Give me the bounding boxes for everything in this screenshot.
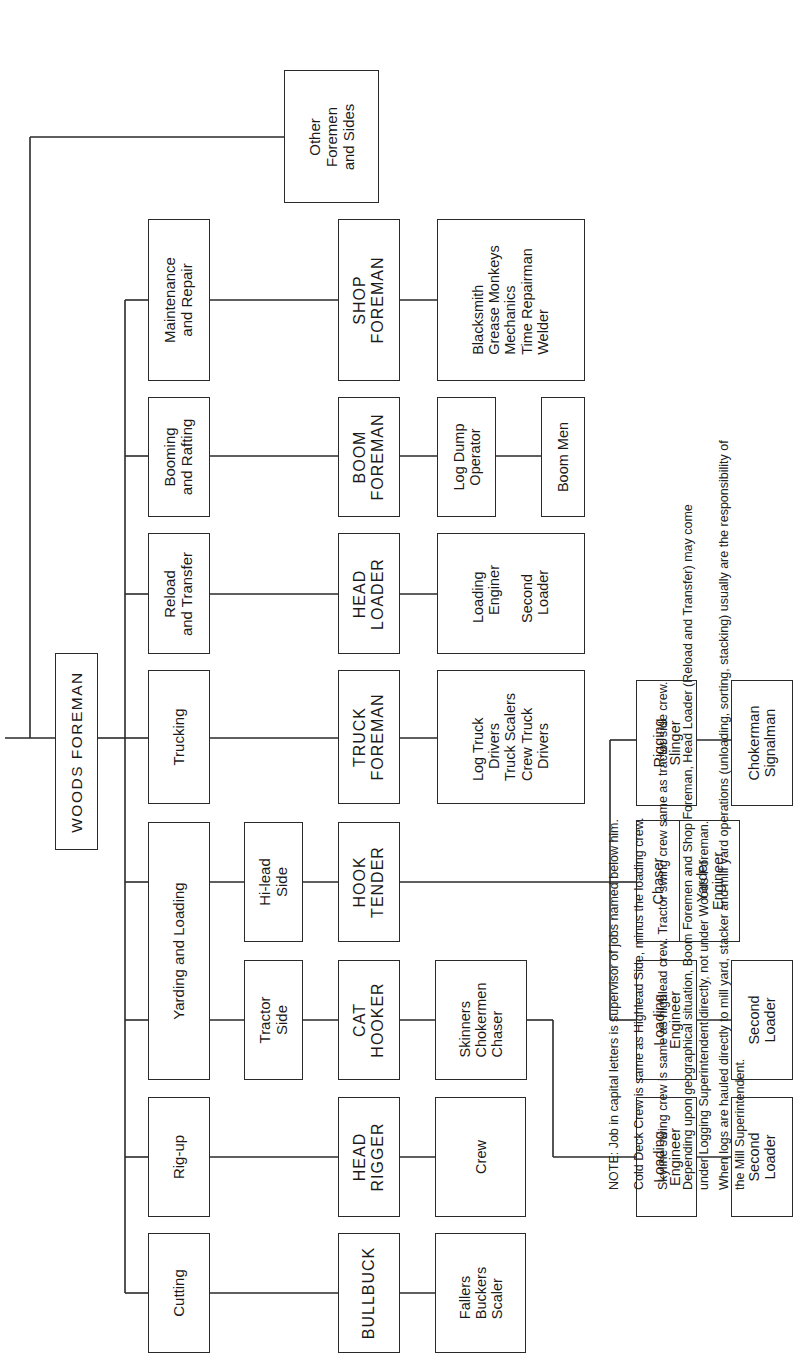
- note-line: Depending upon geographical situation, B…: [680, 470, 713, 1190]
- woods-foreman-label: WOODS FOREMAN: [68, 671, 85, 833]
- cat-hooker-box: CAT HOOKER: [338, 960, 400, 1080]
- other-foremen-label: Other Foremen and Sides: [306, 103, 356, 170]
- other-foremen-box: Other Foremen and Sides: [284, 70, 379, 203]
- dept-cutting: Cutting: [148, 1233, 210, 1353]
- dept-yarding: Yarding and Loading: [148, 822, 210, 1080]
- dept-booming: Booming and Rafting: [148, 397, 210, 517]
- hook-tender-label: HOOK TENDER: [351, 846, 387, 918]
- dept-rigup-label: Rig-up: [171, 1135, 188, 1179]
- hilead-side-box: Hi-lead Side: [244, 822, 303, 942]
- head-loader-label: HEAD LOADER: [351, 558, 387, 630]
- boom-men-label: Boom Men: [555, 422, 571, 492]
- woods-foreman-box: WOODS FOREMAN: [55, 653, 98, 850]
- boom-men-box: Boom Men: [541, 397, 585, 517]
- cutting-crew-box: Fallers Buckers Scaler: [435, 1233, 526, 1353]
- head-rigger-label: HEAD RIGGER: [351, 1122, 387, 1191]
- tractor-side-label: Tractor Side: [257, 997, 291, 1044]
- head-loader-box: HEAD LOADER: [338, 533, 400, 654]
- maintenance-crew-label: Blacksmith Grease Monkeys Mechanics Time…: [470, 245, 551, 355]
- dept-rigup: Rig-up: [148, 1097, 210, 1217]
- shop-foreman-label: SHOP FOREMAN: [351, 257, 387, 344]
- note-line: NOTE: Job in capital letters is supervis…: [606, 30, 623, 1190]
- dept-yarding-label: Yarding and Loading: [171, 882, 188, 1019]
- dept-maintenance: Maintenance and Repair: [148, 219, 210, 381]
- dept-booming-label: Booming and Rafting: [162, 419, 196, 496]
- reload-crew-box: Loading Enginer Second Loader: [437, 533, 585, 654]
- dept-reload-label: Reload and Transfer: [162, 551, 196, 635]
- boom-foreman-label: BOOM FOREMAN: [351, 414, 387, 501]
- log-dump-operator-box: Log Dump Operator: [437, 397, 496, 517]
- truck-foreman-label: TRUCK FOREMAN: [351, 694, 387, 781]
- tractor-crew-box: Skinners Chokermen Chaser: [435, 960, 527, 1080]
- trucking-crew-label: Log Truck Drivers Truck Scalers Crew Tru…: [470, 693, 551, 781]
- dept-trucking: Trucking: [148, 670, 210, 804]
- dept-reload: Reload and Transfer: [148, 533, 210, 654]
- cat-hooker-label: CAT HOOKER: [351, 982, 387, 1057]
- cutting-crew-label: Fallers Buckers Scaler: [456, 1267, 505, 1319]
- bullbuck-box: BULLBUCK: [338, 1233, 400, 1353]
- dept-maintenance-label: Maintenance and Repair: [162, 257, 196, 343]
- maintenance-crew-box: Blacksmith Grease Monkeys Mechanics Time…: [437, 219, 585, 381]
- trucking-crew-box: Log Truck Drivers Truck Scalers Crew Tru…: [437, 670, 585, 804]
- note-line: Cold Deck Crew is same as Highlead Side,…: [631, 30, 648, 1190]
- truck-foreman-box: TRUCK FOREMAN: [338, 670, 400, 804]
- log-dump-operator-label: Log Dump Operator: [450, 424, 482, 491]
- tractor-side-box: Tractor Side: [244, 960, 303, 1080]
- dept-cutting-label: Cutting: [171, 1269, 188, 1317]
- rigup-crew-box: Crew: [435, 1097, 526, 1217]
- reload-crew-label: Loading Enginer Second Loader: [470, 564, 551, 622]
- bullbuck-label: BULLBUCK: [360, 1247, 378, 1339]
- head-rigger-box: HEAD RIGGER: [338, 1097, 400, 1217]
- note-line: Skyline swing crew is same as highlead c…: [655, 470, 672, 1190]
- hilead-side-label: Hi-lead Side: [257, 858, 291, 906]
- note-line: When logs are hauled directly to mill ya…: [716, 430, 749, 1190]
- hook-tender-box: HOOK TENDER: [338, 822, 400, 942]
- boom-foreman-box: BOOM FOREMAN: [338, 397, 400, 517]
- notes-block: NOTE: Job in capital letters is supervis…: [606, 30, 752, 1190]
- dept-trucking-label: Trucking: [171, 709, 188, 766]
- tractor-crew-label: Skinners Chokermen Chaser: [457, 983, 506, 1058]
- rigup-crew-label: Crew: [472, 1140, 488, 1174]
- shop-foreman-box: SHOP FOREMAN: [338, 219, 400, 381]
